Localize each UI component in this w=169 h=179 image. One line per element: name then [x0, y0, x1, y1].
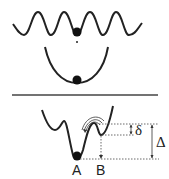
- delta-small-label: δ: [135, 122, 142, 138]
- center-marker: [76, 41, 78, 43]
- delta-arrowhead-bottom: [130, 132, 133, 135]
- double-well-curve: [42, 106, 113, 158]
- delta-large-label: Δ: [156, 134, 166, 150]
- particle-on-wave: [73, 28, 82, 37]
- big-delta-arrowhead-bottom: [151, 155, 154, 159]
- particle-in-parabola: [73, 76, 82, 85]
- well-b-drop-arrowhead: [99, 155, 103, 159]
- big-delta-arrowhead-top: [151, 125, 154, 129]
- delta-arrowhead-top: [130, 125, 133, 128]
- well-a-label: A: [72, 162, 82, 178]
- diagram-canvas: δ Δ A B: [0, 0, 169, 179]
- well-b-label: B: [96, 162, 105, 178]
